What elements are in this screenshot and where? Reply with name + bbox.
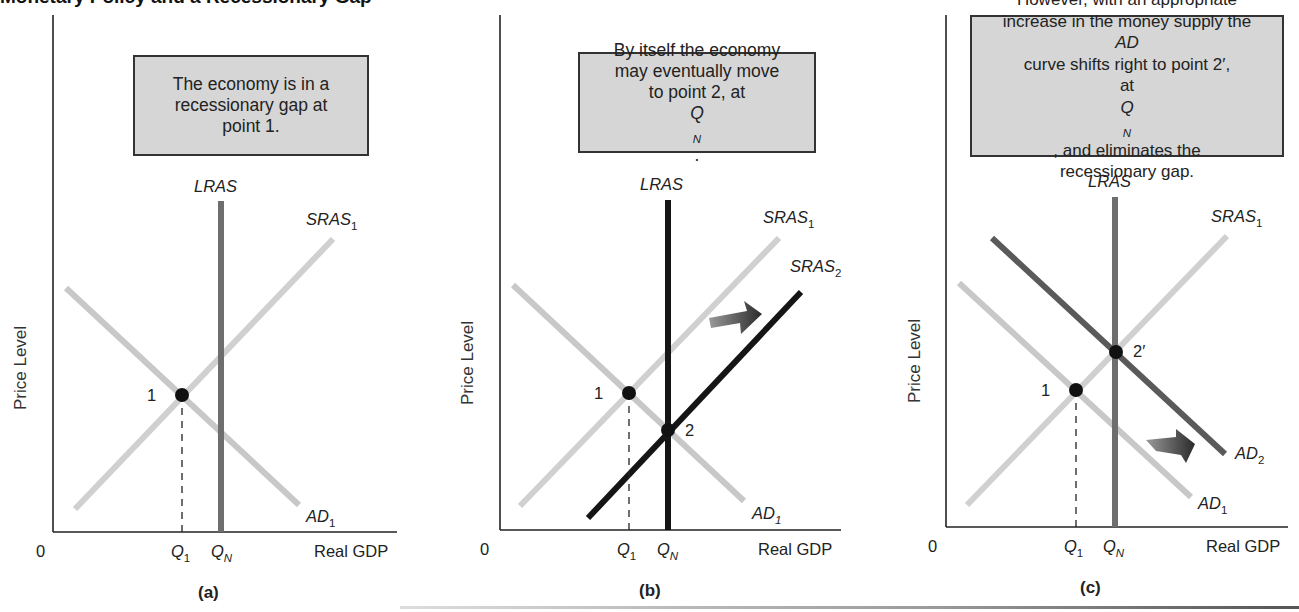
callout-line: may eventually move [614,61,780,82]
sras1-curve [75,239,333,509]
callout-line: However, with an appropriate [1003,0,1252,11]
panel-c: However, with an appropriate increase in… [893,0,1299,612]
callout-box: The economy is in a recessionary gap at … [133,55,369,156]
subscript: N [670,550,678,562]
subscript: N [1116,547,1124,559]
sras-text: SRAS [790,257,835,275]
subscript: 1 [1077,547,1083,559]
q1-tick-label: Q1 [1064,537,1083,556]
subscript: 2 [835,267,841,279]
point-1-label: 1 [594,384,603,403]
panel-label: (a) [198,583,219,603]
y-axis-label: Price Level [905,319,925,403]
ad-text: AD [752,504,775,522]
ad-text: AD [1235,444,1258,462]
lras-label: LRAS [194,177,237,196]
ad1-label: AD1 [306,507,335,526]
point-1-label: 1 [1041,381,1050,400]
callout-q: Q [1003,97,1252,119]
subscript: 1 [808,218,814,230]
equilibrium-point-1 [622,386,636,400]
callout-line: to point 2, at QN. [614,82,780,166]
origin-label: 0 [36,542,45,561]
panel-a: The economy is in a recessionary gap at … [0,0,430,612]
sras1-label: SRAS1 [306,210,357,229]
subscript: 1 [329,517,335,529]
equilibrium-point-2 [661,423,675,437]
sras-text: SRAS [763,208,808,226]
equilibrium-point-1 [1069,383,1083,397]
y-axis-label: Price Level [458,321,478,405]
q1-tick-label: Q1 [171,542,190,561]
origin-label: 0 [480,540,489,559]
qn-tick-label: QN [1103,537,1124,556]
sras-text: SRAS [1211,207,1256,225]
q1-tick-label: Q1 [617,540,636,559]
equilibrium-point-2-prime [1109,345,1123,359]
sras1-curve [520,238,779,506]
equilibrium-point-1 [175,388,189,402]
subscript: 1 [1256,217,1262,229]
callout-line: The economy is in a [173,74,330,95]
x-axis-label: Real GDP [314,542,388,561]
sras1-label: SRAS1 [763,208,814,227]
callout-text: to point 2, at [614,82,780,103]
qn-tick-label: QN [211,542,232,561]
callout-line: recessionary gap at [173,95,330,116]
callout-text: at [1003,75,1252,97]
subscript: 2 [1258,454,1264,466]
qn-tick-label: QN [657,540,678,559]
q-text: Q [1103,537,1116,555]
callout-line: point 1. [173,116,330,137]
sras-text: SRAS [306,210,351,228]
lras-label: LRAS [640,175,683,194]
callout-line: at QN, and eliminates the [1003,75,1252,161]
callout-text: curve shifts right to point 2′, [1003,54,1252,76]
panel-b: By itself the economy may eventually mov… [447,0,877,612]
callout-line: By itself the economy [614,40,780,61]
ad-text: AD [306,507,329,525]
callout-ad: AD [1003,32,1252,54]
ad1-label: AD1 [1198,494,1227,513]
ad-text: AD [1198,494,1221,512]
subscript: 1 [630,550,636,562]
subscript: N [614,129,780,150]
q-text: Q [657,540,670,558]
q-text: Q [617,540,630,558]
point-2-label: 2 [685,421,694,440]
q-text: Q [171,542,184,560]
ad1-label: AD1 [752,504,781,523]
subscript: 1 [775,514,781,526]
callout-line: AD curve shifts right to point 2′, [1003,32,1252,75]
shift-right-arrow-icon [1146,429,1195,463]
subscript: N [1003,123,1252,145]
bottom-rule [400,606,1299,609]
sras2-label: SRAS2 [790,257,841,276]
callout-q: Q [614,103,780,124]
lras-label: LRAS [1088,172,1131,191]
subscript: 1 [184,552,190,564]
subscript: 1 [1221,504,1227,516]
subscript: N [224,552,232,564]
point-1-label: 1 [147,386,156,405]
callout-box: However, with an appropriate increase in… [970,15,1284,157]
x-axis-label: Real GDP [758,540,832,559]
subscript: 1 [351,220,357,232]
callout-line: increase in the money supply the [1003,11,1252,33]
callout-box: By itself the economy may eventually mov… [578,52,816,153]
q-text: Q [1064,537,1077,555]
ad2-label: AD2 [1235,444,1264,463]
point-2-prime-label: 2′ [1133,342,1145,361]
y-axis-label: Price Level [11,326,31,410]
panel-label: (b) [639,581,661,601]
x-axis-label: Real GDP [1206,537,1280,556]
sras1-curve [967,236,1227,505]
origin-label: 0 [928,537,937,556]
panel-label: (c) [1080,578,1101,598]
sras1-label: SRAS1 [1211,207,1262,226]
q-text: Q [211,542,224,560]
